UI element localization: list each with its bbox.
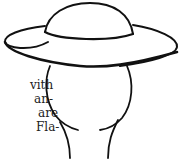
hat-illustration xyxy=(0,0,180,166)
hat-band xyxy=(45,32,133,39)
head-left xyxy=(46,66,78,130)
hat-crown xyxy=(45,3,133,34)
hat-brim-bottom xyxy=(5,42,177,67)
hat-brim-top xyxy=(5,26,48,48)
head-right xyxy=(100,66,131,130)
